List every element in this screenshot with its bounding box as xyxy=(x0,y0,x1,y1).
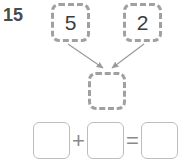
number-bond-sum-box[interactable] xyxy=(88,72,126,110)
number-bond-addend-1-value: 5 xyxy=(65,12,77,33)
equation-answer-box-3[interactable] xyxy=(141,122,178,159)
equation-answer-box-2[interactable] xyxy=(87,122,124,159)
equals-icon: = xyxy=(124,130,141,152)
number-bond-addend-2-value: 2 xyxy=(137,12,149,33)
equation-answer-box-1[interactable] xyxy=(33,122,70,159)
plus-icon: + xyxy=(70,130,87,152)
arrow-from-addend-2-to-sum xyxy=(112,44,144,68)
problem-number: 15 xyxy=(3,5,23,25)
arrow-from-addend-1-to-sum xyxy=(68,44,103,68)
number-bond-addend-box-1[interactable]: 5 xyxy=(51,3,90,42)
equation-row: + = xyxy=(33,121,178,160)
worksheet-problem: 15 5 2 + = xyxy=(0,0,178,163)
number-bond-addend-box-2[interactable]: 2 xyxy=(123,3,162,42)
